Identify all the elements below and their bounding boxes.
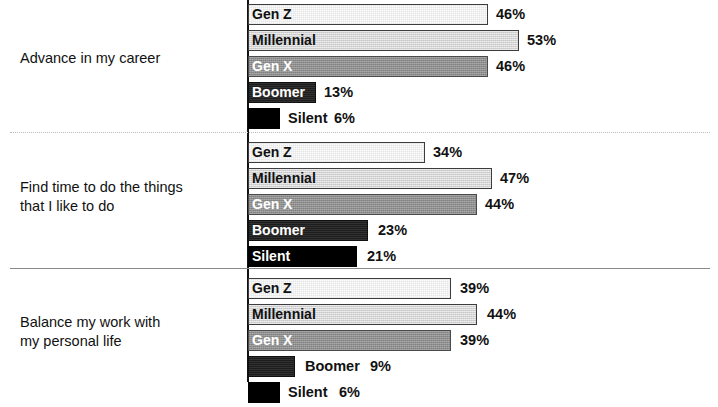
bar-row-gen-x: Gen X46%	[248, 56, 708, 77]
bar-series-label-silent: Silent	[288, 382, 327, 403]
bar-series-label-boomer: Boomer	[305, 356, 360, 377]
bar-value-gen-z: 39%	[460, 278, 489, 299]
bar-row-millennial: Millennial44%	[248, 304, 708, 325]
bar-row-gen-z: Gen Z34%	[248, 142, 708, 163]
category-label: Balance my work with my personal life	[20, 313, 235, 351]
bar-row-millennial: Millennial53%	[248, 30, 708, 51]
bar-series-label-gen-z: Gen Z	[252, 142, 292, 163]
bar-row-silent: Silent21%	[248, 246, 708, 267]
bar-value-silent: 6%	[334, 108, 355, 129]
group-separator-2	[10, 268, 710, 269]
bar-value-millennial: 53%	[527, 30, 556, 51]
bar-series-label-silent: Silent	[288, 108, 327, 129]
bar-row-silent: Silent6%	[248, 382, 708, 403]
bar-value-gen-z: 46%	[496, 4, 525, 25]
bar-series-label-millennial: Millennial	[252, 304, 316, 325]
group-separator-1	[10, 132, 710, 133]
bar-value-gen-x: 39%	[460, 330, 489, 351]
bar-row-boomer: Boomer23%	[248, 220, 708, 241]
bar-row-silent: Silent6%	[248, 108, 708, 129]
bar-row-gen-x: Gen X44%	[248, 194, 708, 215]
generational-priorities-bar-chart: Advance in my careerGen Z46%Millennial53…	[0, 0, 718, 407]
bar-value-millennial: 44%	[487, 304, 516, 325]
bar-row-gen-x: Gen X39%	[248, 330, 708, 351]
bar-series-label-gen-z: Gen Z	[252, 4, 292, 25]
bar-series-label-gen-x: Gen X	[252, 194, 292, 215]
bar-value-silent: 6%	[339, 382, 360, 403]
bar-value-boomer: 9%	[370, 356, 391, 377]
bar-silent	[248, 382, 280, 403]
bar-series-label-boomer: Boomer	[252, 82, 305, 103]
bar-series-label-gen-x: Gen X	[252, 56, 292, 77]
bar-value-gen-x: 44%	[485, 194, 514, 215]
bar-series-label-gen-z: Gen Z	[252, 278, 292, 299]
bar-series-label-millennial: Millennial	[252, 168, 316, 189]
bar-value-boomer: 13%	[324, 82, 353, 103]
bar-boomer	[248, 356, 295, 377]
bar-row-gen-z: Gen Z39%	[248, 278, 708, 299]
bar-row-boomer: Boomer9%	[248, 356, 708, 377]
bar-series-label-boomer: Boomer	[252, 220, 305, 241]
bar-value-millennial: 47%	[500, 168, 529, 189]
category-label: Advance in my career	[20, 49, 235, 68]
bar-value-boomer: 23%	[378, 220, 407, 241]
bar-value-silent: 21%	[367, 246, 396, 267]
category-label: Find time to do the things that I like t…	[20, 178, 235, 216]
bar-series-label-gen-x: Gen X	[252, 330, 292, 351]
bar-value-gen-x: 46%	[496, 56, 525, 77]
bar-row-gen-z: Gen Z46%	[248, 4, 708, 25]
bar-value-gen-z: 34%	[433, 142, 462, 163]
bar-silent	[248, 108, 280, 129]
bar-series-label-silent: Silent	[252, 246, 290, 267]
bar-row-boomer: Boomer13%	[248, 82, 708, 103]
bar-row-millennial: Millennial47%	[248, 168, 708, 189]
bar-series-label-millennial: Millennial	[252, 30, 316, 51]
